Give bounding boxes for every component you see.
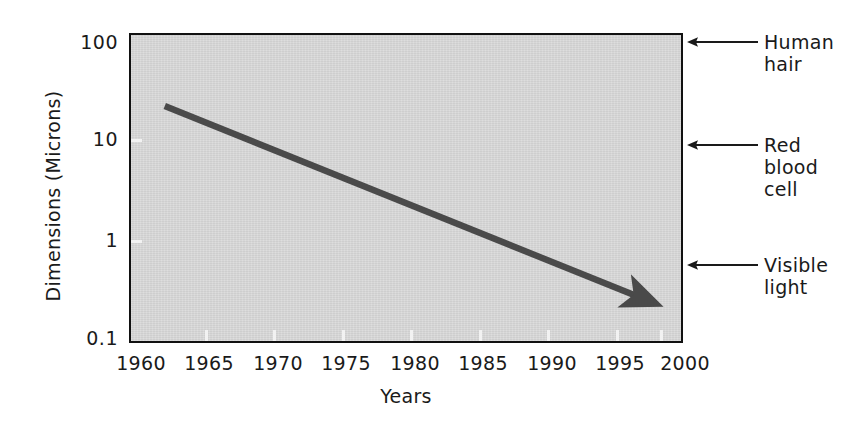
plot-area — [129, 33, 683, 343]
x-tick-label: 1960 — [109, 352, 173, 374]
x-axis-title: Years — [129, 385, 683, 407]
left-arrow-icon — [686, 31, 760, 53]
annotation-label: Red blood cell — [764, 134, 818, 200]
x-tick-label: 2000 — [653, 352, 717, 374]
x-tick-label: 1975 — [314, 352, 378, 374]
nanotechnology-scale-chart: 100 10 1 0.1 1960 1965 1970 1975 1980 19… — [0, 0, 861, 440]
x-tick-label: 1980 — [383, 352, 447, 374]
trend-line — [131, 35, 681, 341]
x-tick-label: 1990 — [520, 352, 584, 374]
annotation-label: Human hair — [764, 31, 834, 75]
annotation-label: Visible light — [764, 254, 828, 298]
y-axis-title: Dimensions (Microns) — [42, 46, 64, 346]
x-tick-label: 1985 — [451, 352, 515, 374]
left-arrow-icon — [686, 254, 760, 276]
x-tick-label: 1970 — [246, 352, 310, 374]
left-arrow-icon — [686, 134, 760, 156]
x-tick-label: 1965 — [177, 352, 241, 374]
x-tick-label: 1995 — [588, 352, 652, 374]
